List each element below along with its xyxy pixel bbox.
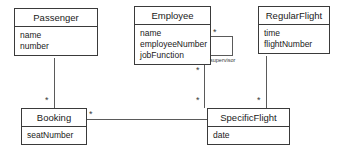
multiplicity-passenger-booking: * — [45, 96, 49, 105]
attribute: flightNumber — [264, 39, 324, 50]
attribute: name — [20, 30, 92, 41]
attribute: name — [140, 28, 205, 39]
association-booking-specificflight-line — [87, 119, 207, 120]
class-name-employee: Employee — [135, 7, 210, 25]
class-box-passenger[interactable]: Passenger name number — [14, 8, 98, 56]
multiplicity-employee-specificflight-top: * — [196, 66, 200, 75]
association-employee-specificflight-line — [204, 63, 205, 108]
class-box-regularflight[interactable]: RegularFlight time flightNumber — [258, 6, 330, 54]
multiplicity-regularflight-specificflight: * — [257, 96, 261, 105]
class-attributes-specificflight: date — [208, 127, 289, 144]
multiplicity-employee-specificflight-bottom: * — [196, 96, 200, 105]
class-attributes-passenger: name number — [15, 27, 97, 55]
class-name-booking: Booking — [22, 109, 86, 127]
association-passenger-booking-line — [54, 58, 55, 108]
class-attributes-regularflight: time flightNumber — [259, 25, 329, 53]
association-employee-supervisor-loop — [211, 36, 233, 56]
attribute: time — [264, 28, 324, 39]
attribute: number — [20, 41, 92, 52]
attribute: date — [213, 130, 284, 141]
multiplicity-booking-specificflight: * — [89, 110, 93, 119]
class-box-booking[interactable]: Booking seatNumber — [21, 108, 87, 145]
class-attributes-booking: seatNumber — [22, 127, 86, 144]
attribute: seatNumber — [27, 130, 81, 141]
class-box-specificflight[interactable]: SpecificFlight date — [207, 108, 290, 145]
class-name-passenger: Passenger — [15, 9, 97, 27]
class-attributes-employee: name employeeNumber jobFunction — [135, 25, 210, 64]
uml-class-diagram-canvas: Passenger name number Employee name empl… — [0, 0, 340, 152]
attribute: jobFunction — [140, 50, 205, 61]
association-regularflight-specificflight-line — [266, 56, 267, 108]
multiplicity-employee-supervisor: * — [213, 28, 217, 37]
class-box-employee[interactable]: Employee name employeeNumber jobFunction — [134, 6, 211, 65]
attribute: employeeNumber — [140, 39, 205, 50]
class-name-regularflight: RegularFlight — [259, 7, 329, 25]
class-name-specificflight: SpecificFlight — [208, 109, 289, 127]
association-label-supervisor: supervisor — [210, 57, 235, 64]
